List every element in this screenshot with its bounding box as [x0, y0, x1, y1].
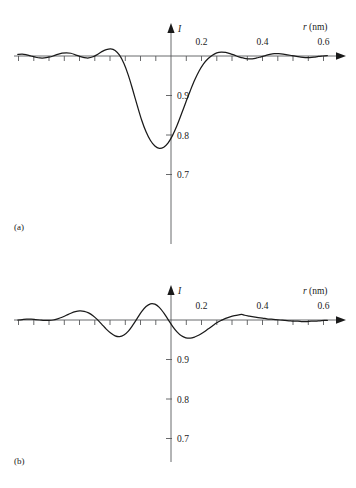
- x-axis-title-a-unit: (nm): [309, 22, 327, 33]
- x-tick-label-a-1: 0.4: [257, 37, 269, 47]
- x-tick-label-b-1: 0.4: [257, 301, 269, 311]
- plot-b-svg: 0.2 0.4 0.6 0.9 0.8 0.7 I r (nm): [0, 244, 356, 488]
- x-tick-label-a-2: 0.6: [318, 37, 330, 47]
- x-axis-title-b-unit: (nm): [309, 286, 327, 297]
- y-tick-label-b-0: 0.9: [177, 355, 189, 365]
- figure-container: 0.2 0.4 0.6 0.9 0.8 0.7 I r (nm) (a): [0, 0, 356, 488]
- panel-b: 0.2 0.4 0.6 0.9 0.8 0.7 I r (nm) (b): [0, 244, 356, 488]
- y-axis-title-b: I: [177, 286, 182, 296]
- panel-label-a: (a): [14, 222, 24, 232]
- x-tick-label-a-0: 0.2: [196, 37, 208, 47]
- y-tick-label-a-2: 0.7: [177, 170, 189, 180]
- x-tick-label-b-2: 0.6: [318, 301, 330, 311]
- x-tick-label-b-0: 0.2: [196, 301, 208, 311]
- y-tick-label-a-1: 0.8: [177, 131, 189, 141]
- y-tick-label-b-2: 0.7: [177, 434, 189, 444]
- panel-a: 0.2 0.4 0.6 0.9 0.8 0.7 I r (nm) (a): [0, 0, 356, 244]
- x-axis-arrowhead-a: [336, 52, 346, 60]
- curve-a: [18, 49, 328, 149]
- x-axis-title-b-symbol: r: [303, 286, 307, 296]
- y-axis-arrowhead-b: [167, 285, 174, 295]
- plot-a-svg: 0.2 0.4 0.6 0.9 0.8 0.7 I r (nm): [0, 0, 356, 244]
- y-axis-title-a: I: [177, 24, 182, 34]
- x-axis-arrowhead-b: [336, 316, 346, 324]
- y-axis-arrowhead-a: [167, 23, 174, 33]
- y-tick-label-b-1: 0.8: [177, 395, 189, 405]
- x-axis-title-a-symbol: r: [303, 22, 307, 32]
- panel-label-b: (b): [14, 456, 25, 466]
